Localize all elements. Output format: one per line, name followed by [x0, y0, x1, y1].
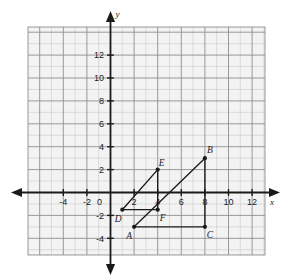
point-f: [156, 208, 160, 212]
point-label-a: A: [125, 231, 132, 241]
y-tick-label: -4: [96, 234, 104, 244]
origin-label: 0: [97, 197, 102, 207]
y-axis-label: y: [115, 9, 120, 19]
y-tick-label: 6: [99, 119, 104, 129]
x-tick-label: -2: [83, 197, 91, 207]
x-tick-label: 10: [223, 197, 233, 207]
y-tick-label: 12: [94, 50, 104, 60]
x-axis-label: x: [269, 197, 274, 207]
point-label-e: E: [158, 158, 165, 168]
point-label-c: C: [207, 230, 214, 240]
x-tick-label: -4: [59, 197, 67, 207]
y-tick-label: 8: [99, 96, 104, 106]
y-tick-label: 10: [94, 73, 104, 83]
x-tick-label: 6: [179, 197, 184, 207]
x-tick-label: 12: [247, 197, 257, 207]
point-e: [156, 168, 160, 172]
y-tick-label: 2: [99, 165, 104, 175]
graph-figure: -4-22468101212108642-2-4 ABCDEF x y 0: [0, 0, 286, 278]
point-c: [203, 225, 207, 229]
point-label-d: D: [114, 214, 122, 224]
point-a: [132, 225, 136, 229]
point-b: [203, 156, 207, 160]
point-label-b: B: [207, 145, 213, 155]
coordinate-plane: -4-22468101212108642-2-4 ABCDEF x y 0: [0, 0, 286, 278]
point-label-f: F: [159, 213, 166, 223]
y-tick-label: -2: [96, 211, 104, 221]
y-tick-label: 4: [99, 142, 104, 152]
point-d: [120, 208, 124, 212]
